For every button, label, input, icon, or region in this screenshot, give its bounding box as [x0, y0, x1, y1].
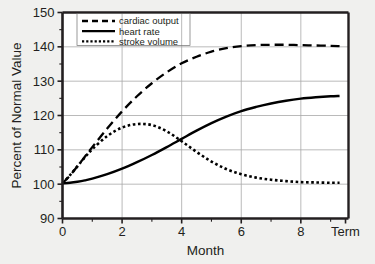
legend-label-stroke-volume: stroke volume: [119, 36, 178, 47]
y-axis-title: Percent of Normal Value: [9, 42, 24, 188]
y-axis-tick-label: 120: [33, 108, 55, 123]
y-axis-tick-label: 130: [33, 74, 55, 89]
y-axis-tick-label: 90: [40, 211, 54, 226]
y-axis-tick-label: 140: [33, 39, 55, 54]
x-axis-tick-label: 6: [238, 224, 245, 239]
line-chart: 9010011012013014015002468TermMonthPercen…: [0, 0, 375, 264]
x-axis-tick-label: 8: [297, 224, 304, 239]
x-axis-tick-label: 4: [178, 224, 185, 239]
y-axis-tick-label: 110: [34, 142, 55, 157]
x-axis-tick-label: 2: [118, 224, 125, 239]
y-axis-tick-label: 100: [33, 177, 55, 192]
figure-container: 9010011012013014015002468TermMonthPercen…: [0, 0, 375, 264]
x-axis-title: Month: [187, 243, 225, 258]
x-axis-tick-label: Term: [331, 224, 360, 239]
x-axis-tick-label: 0: [59, 224, 66, 239]
y-axis-tick-label: 150: [33, 5, 55, 20]
